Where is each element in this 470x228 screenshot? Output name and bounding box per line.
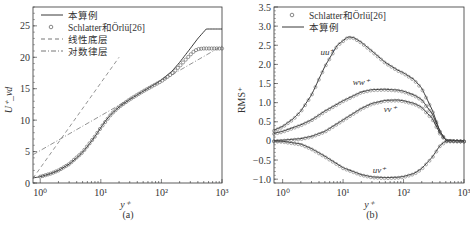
y-axis-ticks-a: 0510152025 (20, 7, 37, 189)
y-tick-label: 5 (25, 146, 30, 157)
curve-annotation: uv⁺ (373, 165, 387, 175)
legend-label: 本算例 (309, 22, 339, 33)
y-tick-label: 0 (25, 178, 30, 189)
legend-label: 对数律层 (68, 46, 108, 57)
data-marker (174, 69, 177, 72)
data-marker (189, 53, 192, 56)
y-tick-label: 3.0 (259, 21, 272, 32)
y-axis-label-a: U⁺_vd (3, 86, 14, 114)
legend-label: 线性底层 (68, 34, 108, 45)
data-marker (393, 99, 396, 102)
chart-figure: 10⁰10¹10²10³ 0510152025 本算例Schlatter和Örl… (0, 0, 470, 228)
x-tick-label: 10¹ (94, 187, 107, 198)
x-tick-label: 10³ (458, 187, 470, 198)
data-marker (387, 89, 390, 92)
curve-annotation: vv⁺ (384, 104, 398, 114)
legend-label: Schlatter和Örlü[26] (309, 10, 386, 21)
data-marker (184, 58, 187, 61)
panel-b: 10⁰10¹10²10³ −1.0−0.500.51.01.52.02.53.0… (236, 2, 470, 222)
legend-label: 本算例 (68, 10, 98, 21)
data-marker (397, 99, 400, 102)
legend-a: 本算例Schlatter和Örlü[26]线性底层对数律层 (41, 10, 145, 57)
data-marker (376, 89, 379, 92)
data-marker (393, 89, 396, 92)
y-tick-label: −1.0 (253, 174, 271, 185)
legend-marker-circle (49, 25, 53, 29)
plot-area-a (33, 7, 222, 183)
y-tick-label: 15 (20, 83, 30, 94)
y-tick-label: 0.5 (259, 116, 272, 127)
x-tick-label: 10⁰ (33, 187, 47, 198)
series-line (33, 46, 222, 155)
caption-a: (a) (122, 209, 133, 221)
y-tick-label: −0.5 (253, 155, 271, 166)
y-tick-label: 10 (20, 115, 30, 126)
y-axis-label-b: RMS⁺ (236, 87, 247, 113)
x-tick-label: 10² (155, 187, 168, 198)
caption-b: (b) (366, 209, 378, 221)
data-marker (390, 99, 393, 102)
legend-marker-circle (290, 13, 294, 17)
curve-annotation: uu⁺ (320, 47, 335, 57)
x-tick-label: 10² (397, 187, 410, 198)
x-axis-ticks-b: 10⁰10¹10²10³ (276, 179, 470, 198)
data-marker (297, 138, 300, 141)
series-group-b (273, 36, 466, 179)
legend-label: Schlatter和Örlü[26] (68, 22, 145, 33)
annotations-b: uu⁺ww⁺vv⁺uv⁺ (320, 47, 397, 176)
x-tick-label: 10¹ (337, 187, 350, 198)
plot-area-b (274, 7, 464, 183)
data-marker (383, 88, 386, 91)
data-marker (181, 61, 184, 64)
y-tick-label: 20 (20, 52, 30, 63)
y-tick-label: 2.5 (259, 40, 272, 51)
legend-b: Schlatter和Örlü[26]本算例 (282, 10, 386, 33)
y-tick-label: 3.5 (259, 2, 272, 13)
curve-annotation: ww⁺ (353, 77, 371, 87)
data-marker (380, 88, 383, 91)
data-marker (176, 66, 179, 69)
x-tick-label: 10³ (216, 187, 229, 198)
y-tick-label: 25 (20, 20, 30, 31)
data-marker (179, 64, 182, 67)
y-tick-label: 0 (266, 135, 271, 146)
y-tick-label: 2.0 (259, 59, 272, 70)
panel-a: 10⁰10¹10²10³ 0510152025 本算例Schlatter和Örl… (3, 7, 229, 221)
x-tick-label: 10⁰ (276, 187, 290, 198)
y-tick-label: 1.0 (259, 97, 272, 108)
series-line (274, 89, 464, 141)
x-axis-ticks-a: 10⁰10¹10²10³ (33, 179, 228, 198)
data-marker (187, 55, 190, 58)
y-tick-label: 1.5 (259, 78, 272, 89)
